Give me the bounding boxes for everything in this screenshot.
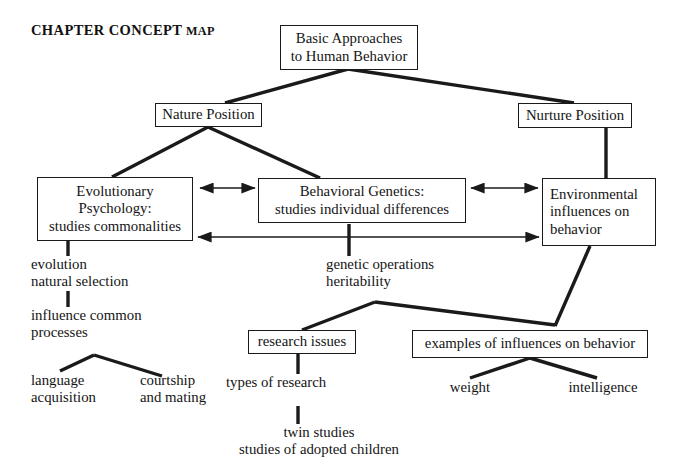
- node-evolution-terms: evolution natural selection: [31, 256, 201, 291]
- page-title-main: CHAPTER CONCEPT: [31, 22, 182, 38]
- node-environmental-influences-line2: influences on: [550, 203, 629, 220]
- node-language-acquisition: language acquisition: [31, 372, 141, 407]
- node-environmental-influences-line3: behavior: [550, 221, 602, 238]
- node-evolutionary-psychology: Evolutionary Psychology: studies commona…: [37, 177, 193, 241]
- node-behavioral-genetics-line2: studies individual differences: [275, 201, 449, 218]
- node-evolution-terms-line1: evolution: [31, 256, 201, 273]
- edge-nature-to-behavioral-genetics: [208, 127, 320, 178]
- node-influence-processes-line2: processes: [31, 324, 211, 341]
- node-genetic-terms-line1: genetic operations: [326, 256, 506, 273]
- node-examples-of-influences-label: examples of influences on behavior: [425, 335, 635, 352]
- edge-nature-to-evolutionary-psychology: [112, 127, 208, 177]
- edge-genetic-terms-to-examples-of-influences: [375, 302, 555, 325]
- node-courtship-mating-line2: and mating: [140, 389, 250, 406]
- node-intelligence: intelligence: [558, 379, 648, 396]
- edge-root-to-nurture: [348, 69, 574, 103]
- edge-genetic-terms-to-research-issues: [302, 302, 375, 330]
- node-basic-approaches-line2: to Human Behavior: [291, 48, 408, 65]
- edge-influence-processes-to-language-acquisition: [60, 355, 94, 371]
- node-basic-approaches: Basic Approaches to Human Behavior: [280, 25, 418, 70]
- node-environmental-influences: Environmental influences on behavior: [542, 178, 656, 246]
- node-twin-studies: twin studies studies of adopted children: [213, 424, 425, 459]
- node-nature-position: Nature Position: [155, 103, 262, 127]
- edge-examples-of-influences-to-intelligence: [530, 358, 597, 378]
- edge-root-to-nature: [225, 69, 348, 103]
- node-basic-approaches-line1: Basic Approaches: [296, 30, 402, 47]
- node-nurture-position: Nurture Position: [518, 103, 632, 128]
- node-evolutionary-psychology-line3: studies commonalities: [49, 218, 181, 235]
- page-title-suffix: MAP: [186, 24, 215, 38]
- node-evolutionary-psychology-line1: Evolutionary: [76, 183, 153, 200]
- edge-examples-of-influences-to-weight: [470, 358, 530, 378]
- node-language-acquisition-line2: acquisition: [31, 389, 141, 406]
- page-title: CHAPTER CONCEPT MAP: [31, 22, 215, 39]
- node-influence-processes-line1: influence common: [31, 307, 211, 324]
- node-genetic-terms: genetic operations heritability: [326, 256, 506, 291]
- node-types-of-research-label: types of research: [226, 374, 386, 391]
- node-behavioral-genetics: Behavioral Genetics: studies individual …: [258, 178, 466, 223]
- node-twin-studies-line1: twin studies: [213, 424, 425, 441]
- node-weight: weight: [432, 379, 508, 396]
- node-environmental-influences-line1: Environmental: [550, 186, 638, 203]
- node-examples-of-influences: examples of influences on behavior: [412, 330, 648, 358]
- node-evolution-terms-line2: natural selection: [31, 273, 201, 290]
- node-research-issues: research issues: [248, 330, 356, 354]
- edge-environmental-influences-to-examples-of-influences: [555, 246, 590, 326]
- node-genetic-terms-line2: heritability: [326, 273, 506, 290]
- node-research-issues-label: research issues: [258, 333, 346, 350]
- node-behavioral-genetics-line1: Behavioral Genetics:: [300, 183, 425, 200]
- node-influence-processes: influence common processes: [31, 307, 211, 342]
- concept-map-figure: CHAPTER CONCEPT MAP: [0, 0, 689, 476]
- node-nature-position-label: Nature Position: [162, 106, 254, 123]
- node-weight-label: weight: [432, 379, 508, 396]
- node-twin-studies-line2: studies of adopted children: [213, 441, 425, 458]
- node-nurture-position-label: Nurture Position: [526, 107, 624, 124]
- node-evolutionary-psychology-line2: Psychology:: [78, 200, 151, 217]
- node-types-of-research: types of research: [226, 374, 386, 391]
- node-language-acquisition-line1: language: [31, 372, 141, 389]
- node-intelligence-label: intelligence: [558, 379, 648, 396]
